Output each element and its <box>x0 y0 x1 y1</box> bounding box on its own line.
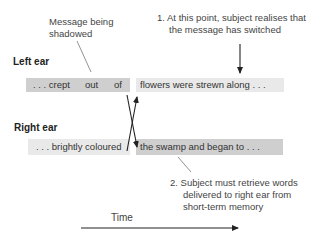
retrieve-pointer-line <box>178 157 191 172</box>
shadowed-pointer-line <box>77 41 91 72</box>
diagram-lines <box>0 0 327 239</box>
